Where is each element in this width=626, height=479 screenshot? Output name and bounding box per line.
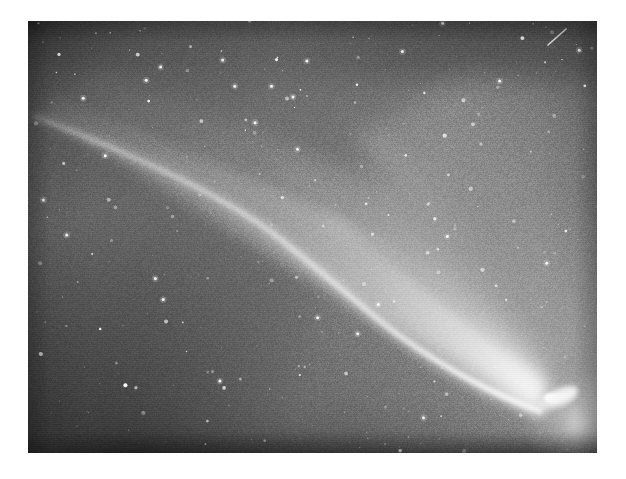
sky-background <box>28 21 597 453</box>
page-root <box>0 0 626 479</box>
comet-photograph <box>28 21 597 453</box>
